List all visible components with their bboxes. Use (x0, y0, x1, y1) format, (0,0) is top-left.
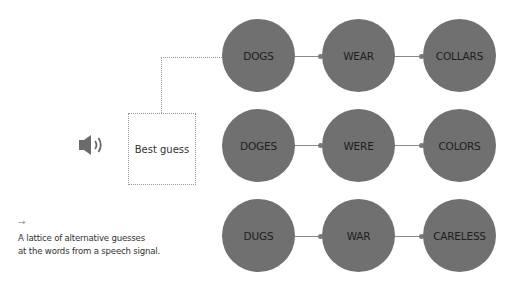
edge-row3-1-2 (295, 236, 322, 237)
caption-line: A lattice of alternative guesses (18, 232, 160, 245)
edge-row1-1-2 (295, 56, 322, 57)
speaker-icon (79, 135, 105, 155)
node-row3-word1: DUGS (222, 199, 295, 272)
node-row3-word2: WAR (322, 199, 395, 272)
node-label: DOGES (240, 140, 277, 152)
edge-row1-2-3 (395, 56, 423, 57)
node-label: WAR (347, 230, 371, 242)
node-label: CARELESS (433, 230, 486, 242)
node-label: WERE (343, 140, 373, 152)
node-label: DOGS (243, 50, 273, 62)
node-row2-word2: WERE (322, 109, 395, 182)
best-guess-connector-horizontal (161, 57, 222, 58)
edge-row3-2-3 (395, 236, 423, 237)
best-guess-box: Best guess (128, 113, 196, 185)
best-guess-connector-vertical (161, 57, 162, 113)
node-label: COLORS (438, 140, 480, 152)
node-row1-word1: DOGS (222, 19, 295, 92)
node-label: WEAR (343, 50, 374, 62)
edge-row2-2-3 (395, 145, 423, 146)
caption-line: at the words from a speech signal. (18, 245, 160, 258)
node-row1-word2: WEAR (322, 19, 395, 92)
caption: A lattice of alternative guesses at the … (18, 232, 160, 257)
node-label: COLLARS (436, 50, 483, 62)
best-guess-label: Best guess (135, 144, 190, 155)
node-row3-word3: CARELESS (423, 199, 496, 272)
caption-arrow-icon: → (18, 217, 26, 227)
edge-row2-1-2 (295, 145, 322, 146)
node-row2-word1: DOGES (222, 109, 295, 182)
node-label: DUGS (244, 230, 274, 242)
node-row2-word3: COLORS (423, 109, 496, 182)
node-row1-word3: COLLARS (423, 19, 496, 92)
